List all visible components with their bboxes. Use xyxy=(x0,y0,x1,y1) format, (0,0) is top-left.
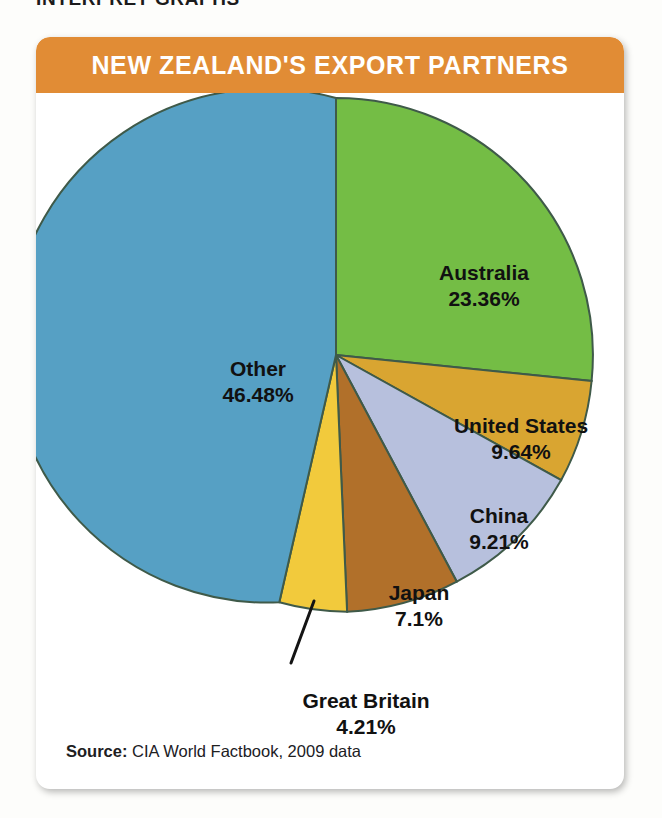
chart-source-label: Source: xyxy=(66,742,127,760)
chart-title-bar: NEW ZEALAND'S EXPORT PARTNERS xyxy=(36,37,624,93)
pie-slice-australia xyxy=(336,98,593,381)
pie-slices xyxy=(36,93,593,612)
chart-source-text: CIA World Factbook, 2009 data xyxy=(127,742,361,760)
pie-chart: Australia 23.36% United States 9.64% Chi… xyxy=(36,93,624,733)
page-heading: INTERPRET GRAPHS xyxy=(36,0,240,10)
pie-chart-svg xyxy=(36,93,624,733)
pie-slice-other xyxy=(36,93,336,603)
great-britain-leader-line xyxy=(291,601,314,663)
chart-title: NEW ZEALAND'S EXPORT PARTNERS xyxy=(91,51,568,80)
chart-card: NEW ZEALAND'S EXPORT PARTNERS xyxy=(36,37,624,789)
chart-source: Source: CIA World Factbook, 2009 data xyxy=(66,742,361,761)
